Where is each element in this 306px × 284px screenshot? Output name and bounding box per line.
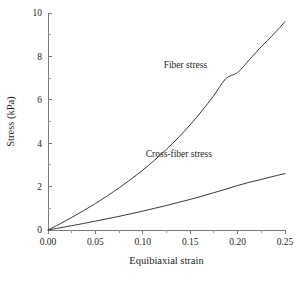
y-tick-label: 2 [37, 182, 42, 192]
y-tick-label: 10 [33, 8, 43, 18]
y-tick-label: 6 [37, 95, 42, 105]
x-axis-title: Equibiaxial strain [129, 255, 204, 266]
x-tick-label: 0.15 [182, 237, 199, 247]
chart-figure: 0.000.050.100.150.200.25 0246810 Fiber s… [0, 0, 306, 284]
x-tick-label: 0.05 [87, 237, 104, 247]
stress-strain-plot: 0.000.050.100.150.200.25 0246810 Fiber s… [0, 0, 306, 284]
x-tick-label: 0.20 [229, 237, 246, 247]
y-axis-title: Stress (kPa) [5, 96, 17, 147]
x-tick-label: 0.10 [134, 237, 151, 247]
y-tick-label: 4 [37, 139, 42, 149]
y-tick-label: 8 [37, 52, 42, 62]
series-annotation-cross-fiber-stress: Cross-fiber stress [146, 149, 213, 159]
y-tick-label: 0 [37, 225, 42, 235]
x-tick-label: 0.25 [277, 237, 294, 247]
series-annotation-fiber-stress: Fiber stress [164, 60, 208, 70]
x-tick-label: 0.00 [40, 237, 57, 247]
